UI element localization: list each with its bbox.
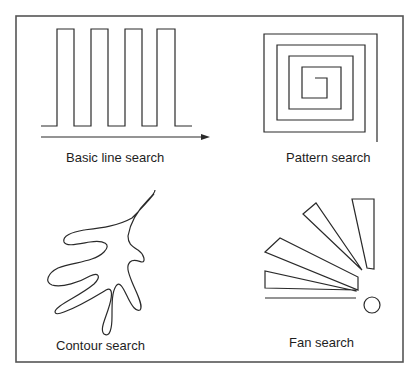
pattern-search-label: Pattern search xyxy=(286,150,371,165)
square-wave-path xyxy=(41,29,192,126)
fan-wedge-1 xyxy=(352,199,374,269)
fan-wedge-2 xyxy=(303,203,362,270)
origin-circle-icon xyxy=(364,297,380,313)
fan-wedge-3 xyxy=(265,238,358,290)
basic-line-search-figure xyxy=(41,29,210,140)
basic-line-search-label: Basic line search xyxy=(66,150,164,165)
leaf-contour-path xyxy=(48,190,155,335)
fan-search-figure xyxy=(265,199,380,313)
contour-search-label: Contour search xyxy=(56,338,145,353)
arrow-head-icon xyxy=(201,134,210,140)
fan-wedge-4 xyxy=(265,271,356,291)
pattern-search-figure xyxy=(264,34,377,142)
contour-search-figure xyxy=(48,190,155,335)
search-patterns-diagram: Basic line search Pattern search Contour… xyxy=(0,0,417,375)
fan-search-label: Fan search xyxy=(289,335,354,350)
square-spiral-path xyxy=(264,34,377,142)
